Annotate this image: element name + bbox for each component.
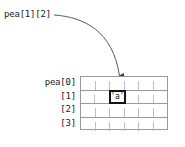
array-cell-1-0 bbox=[81, 91, 95, 104]
array-cell-1-2-highlighted: 'a' bbox=[109, 90, 127, 105]
array-cell-3-1 bbox=[96, 118, 111, 132]
row-label-2: [2] bbox=[40, 103, 76, 117]
array-cell-2-0 bbox=[81, 104, 96, 117]
array-cell-1-3 bbox=[125, 91, 139, 104]
array-row-1: 'a' bbox=[81, 91, 167, 105]
callout-label-pea-1-2: pea[1][2] bbox=[4, 9, 51, 20]
array-row-3 bbox=[81, 118, 167, 132]
array-grid: 'a' bbox=[80, 76, 168, 130]
array-cell-value: 'a' bbox=[111, 93, 125, 101]
array-cell-2-5 bbox=[154, 104, 168, 117]
array-cell-0-4 bbox=[139, 77, 154, 90]
array-cell-2-4 bbox=[139, 104, 154, 117]
array-index-diagram: pea[1][2] pea[0] [1] [2] [3] 'a' bbox=[0, 0, 185, 147]
array-cell-3-4 bbox=[139, 118, 154, 132]
row-label-0: pea[0] bbox=[40, 76, 76, 90]
array-cell-0-0 bbox=[81, 77, 96, 90]
array-cell-0-1 bbox=[96, 77, 111, 90]
array-cell-0-3 bbox=[125, 77, 140, 90]
array-cell-2-3 bbox=[125, 104, 140, 117]
array-cell-3-5 bbox=[154, 118, 168, 132]
row-label-column: pea[0] [1] [2] [3] bbox=[40, 76, 76, 130]
array-row-2 bbox=[81, 104, 167, 118]
array-cell-1-5 bbox=[154, 91, 167, 104]
array-cell-3-3 bbox=[125, 118, 140, 132]
array-cell-3-2 bbox=[110, 118, 125, 132]
array-cell-0-5 bbox=[154, 77, 168, 90]
array-cell-2-1 bbox=[96, 104, 111, 117]
row-label-1: [1] bbox=[40, 90, 76, 104]
array-row-0 bbox=[81, 77, 167, 91]
array-cell-1-4 bbox=[139, 91, 153, 104]
array-cell-2-2 bbox=[110, 104, 125, 117]
array-cell-0-2 bbox=[110, 77, 125, 90]
array-cell-1-1 bbox=[95, 91, 109, 104]
row-label-3: [3] bbox=[40, 117, 76, 131]
array-cell-3-0 bbox=[81, 118, 96, 132]
